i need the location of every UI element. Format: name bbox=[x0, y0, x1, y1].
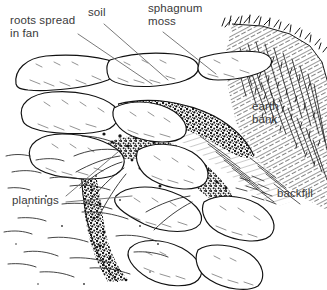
line-art-drawing bbox=[0, 0, 327, 290]
label-earth-bank: earth bank bbox=[252, 100, 279, 125]
illustration-figure: roots spread in fan soil sphagnum moss e… bbox=[0, 0, 327, 290]
label-soil: soil bbox=[88, 6, 106, 19]
label-sphagnum-moss: sphagnum moss bbox=[148, 2, 203, 27]
label-backfill: backfill bbox=[277, 187, 313, 200]
label-roots-spread-in-fan: roots spread in fan bbox=[10, 14, 75, 39]
label-plantings: plantings bbox=[12, 194, 59, 207]
